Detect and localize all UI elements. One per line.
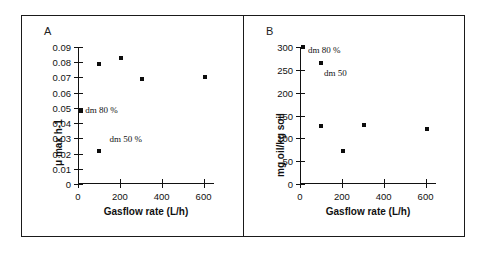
panel-a: A μ max h-1 Gasflow rate (L/h) 00.010.02… xyxy=(22,16,243,236)
data-point xyxy=(79,109,83,113)
panel-a-x-tick xyxy=(78,179,79,188)
panel-a-y-tick-label: 0.04 xyxy=(53,118,72,129)
panel-a-y-axis xyxy=(78,47,79,184)
panel-b-y-tick-label: 100 xyxy=(277,133,293,144)
panel-a-x-tick-label: 0 xyxy=(75,191,80,202)
panel-b-x-tick-label: 0 xyxy=(297,191,302,202)
panel-a-x-tick xyxy=(120,179,121,188)
series-annotation: dm 50 % xyxy=(109,134,142,144)
panel-b-y-tick-label: 50 xyxy=(282,156,293,167)
panel-a-y-tick-label: 0.03 xyxy=(53,133,72,144)
panel-b-y-tick xyxy=(296,70,305,71)
panel-a-x-axis-title: Gasflow rate (L/h) xyxy=(78,206,214,217)
panel-b-y-tick-label: 200 xyxy=(277,87,293,98)
panel-a-y-tick xyxy=(74,93,83,94)
panel-a-y-tick xyxy=(74,154,83,155)
series-annotation: dm 80 % xyxy=(308,45,341,55)
panel-a-y-tick xyxy=(74,77,83,78)
panel-b-y-tick-label: 150 xyxy=(277,110,293,121)
panel-a-x-tick-label: 200 xyxy=(112,191,128,202)
panel-a-x-tick xyxy=(204,179,205,188)
panel-a-y-tick-label: 0.01 xyxy=(53,163,72,174)
panel-a-y-tick xyxy=(74,47,83,48)
panel-a-x-tick-label: 600 xyxy=(196,191,212,202)
panel-b-y-tick xyxy=(296,161,305,162)
panel-a-y-tick xyxy=(74,138,83,139)
panel-b-x-tick xyxy=(342,179,343,188)
panel-b-x-axis-title: Gasflow rate (L/h) xyxy=(300,206,436,217)
panel-b: B mg oil/kg soil Gasflow rate (L/h) 0501… xyxy=(243,16,464,236)
panel-a-y-tick-label: 0.02 xyxy=(53,148,72,159)
panel-b-y-tick xyxy=(296,138,305,139)
figure-container: A μ max h-1 Gasflow rate (L/h) 00.010.02… xyxy=(21,15,465,237)
data-point xyxy=(97,149,101,153)
panel-a-y-tick-label: 0.05 xyxy=(53,102,72,113)
series-annotation: dm 80 % xyxy=(85,105,118,115)
panel-b-y-tick-label: 250 xyxy=(277,64,293,75)
panel-b-x-axis xyxy=(300,183,436,184)
series-annotation: dm 50 xyxy=(324,68,347,78)
panel-b-x-tick xyxy=(300,179,301,188)
panel-a-x-tick xyxy=(162,179,163,188)
panel-b-x-tick xyxy=(426,179,427,188)
panel-b-y-tick xyxy=(296,93,305,94)
panel-b-x-tick-label: 600 xyxy=(418,191,434,202)
data-point xyxy=(203,75,207,79)
panel-a-y-tick xyxy=(74,123,83,124)
panel-a-x-axis xyxy=(78,183,214,184)
panel-a-y-tick-label: 0 xyxy=(66,179,71,190)
panel-b-x-tick-label: 400 xyxy=(376,191,392,202)
data-point xyxy=(97,62,101,66)
panel-b-y-axis-title: mg oil/kg soil xyxy=(275,113,286,177)
data-point xyxy=(140,77,144,81)
panel-a-plot-area: Gasflow rate (L/h) 00.010.020.030.040.05… xyxy=(78,47,214,184)
data-point xyxy=(119,56,123,60)
panel-b-y-tick-label: 300 xyxy=(277,42,293,53)
panel-a-y-tick-label: 0.06 xyxy=(53,87,72,98)
panel-a-y-tick-label: 0.08 xyxy=(53,57,72,68)
panel-b-letter: B xyxy=(266,25,274,37)
data-point xyxy=(341,149,345,153)
panel-a-y-tick-label: 0.09 xyxy=(53,42,72,53)
data-point xyxy=(362,123,366,127)
panel-a-y-tick xyxy=(74,169,83,170)
data-point xyxy=(319,124,323,128)
panel-b-y-tick xyxy=(296,116,305,117)
data-point xyxy=(425,127,429,131)
panel-a-letter: A xyxy=(44,25,52,37)
panel-b-x-tick-label: 200 xyxy=(334,191,350,202)
panel-b-plot-area: Gasflow rate (L/h) 050100150200250300020… xyxy=(300,47,436,184)
panel-b-x-tick xyxy=(384,179,385,188)
data-point xyxy=(301,45,305,49)
panel-a-y-tick xyxy=(74,62,83,63)
panel-a-x-tick-label: 400 xyxy=(154,191,170,202)
panel-b-y-tick-label: 0 xyxy=(288,179,293,190)
data-point xyxy=(319,61,323,65)
panel-a-y-tick-label: 0.07 xyxy=(53,72,72,83)
